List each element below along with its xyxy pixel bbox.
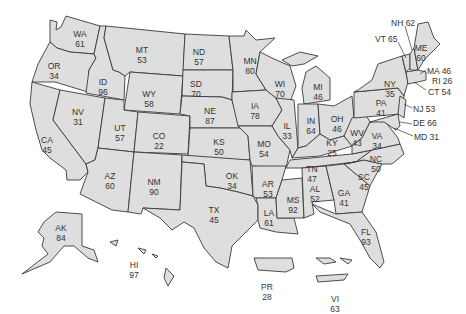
state-label-or: OR34 [48,62,61,81]
state-label-ar: AR53 [262,180,274,199]
state-value: 87 [204,117,216,127]
state-value: 96 [98,88,107,98]
state-value: 70 [190,90,202,100]
state-label-nm: NM90 [147,178,160,197]
state-label-va: VA34 [372,132,383,151]
state-value: 34 [226,182,238,192]
state-label-la: LA61 [264,209,274,228]
leader-ct [414,82,426,90]
state-label-nd: ND57 [193,48,205,67]
state-value: 53 [136,56,148,66]
state-value: 41 [376,109,387,119]
state-value: 80 [243,67,256,77]
state-label-sd: SD70 [190,80,202,99]
state-value: 93 [361,238,371,248]
state-label-ks: KS50 [213,138,224,157]
state-label-ak: AK84 [55,224,66,243]
state-nd [183,34,233,70]
state-value: 50 [370,165,382,175]
state-ak [22,212,98,274]
state-label-nv: NV31 [72,108,84,127]
state-label-ky: KY25 [326,139,337,158]
state-label-ca: CA45 [41,136,53,155]
leader-md [394,128,413,136]
state-value: 33 [282,132,291,142]
state-label-oh: OH46 [331,115,344,134]
state-value: 57 [193,58,205,68]
state-value: 28 [261,293,273,303]
state-label-wi: WI70 [275,80,285,99]
state-label-wa: WA61 [73,30,86,49]
state-label-ga: GA41 [338,189,350,208]
state-value: 70 [275,90,285,100]
state-value: 35 [384,90,396,100]
state-callout-md: MD 31 [414,133,439,143]
state-value: 47 [306,175,317,185]
state-value: 84 [55,234,66,244]
state-label-pr: PR28 [261,283,273,302]
state-label-ny: NY35 [384,80,396,99]
state-label-id: ID96 [98,78,107,97]
state-label-vi: VI63 [330,295,339,314]
state-value: 22 [153,142,166,152]
state-callout-ct: CT 54 [428,88,451,98]
state-callout-ri: RI 26 [432,77,452,87]
state-label-hi: HI97 [129,261,138,280]
state-label-ne: NE87 [204,107,216,126]
state-value: 90 [147,188,160,198]
state-callout-nh: NH 62 [391,19,415,29]
state-label-co: CO22 [153,132,166,151]
state-label-ok: OK34 [226,172,238,191]
state-value: 78 [250,112,259,122]
state-label-az: AZ60 [105,172,116,191]
state-value: 58 [142,100,156,110]
state-callout-nj: NJ 53 [413,105,435,115]
state-label-ia: IA78 [250,102,259,121]
state-value: 45 [209,216,220,226]
state-value: 34 [372,142,383,152]
leader-de [400,122,412,124]
state-value: 46 [331,125,344,135]
state-value: 45 [358,183,370,193]
state-value: 97 [129,271,138,281]
state-label-wy: WY58 [142,90,156,109]
state-hi [110,240,174,286]
territory-pr [254,258,294,272]
state-value: 53 [262,190,274,200]
state-label-il: IL33 [282,122,291,141]
state-label-ms: MS92 [287,196,300,215]
state-label-mt: MT53 [136,46,148,65]
state-callout-vt: VT 65 [375,35,398,45]
state-label-mo: MO54 [257,140,271,159]
state-value: 63 [330,305,339,314]
state-label-fl: FL93 [361,228,371,247]
state-label-wv: WV43 [350,129,364,148]
state-value: 61 [73,40,86,50]
state-label-sc: SC45 [358,173,370,192]
state-value: 25 [326,149,337,159]
territory-vi [316,258,352,282]
state-callout-de: DE 66 [413,119,437,129]
leader-nh [405,26,412,50]
state-value: 60 [105,182,116,192]
state-value: 45 [41,146,53,156]
state-value: 57 [114,134,125,144]
state-value: 92 [287,206,300,216]
state-value: 52 [310,195,320,205]
state-value: 50 [213,148,224,158]
state-label-al: AL52 [310,185,320,204]
state-label-nc: NC50 [370,155,382,174]
state-label-me: ME60 [415,44,428,63]
state-value: 61 [264,219,274,229]
state-value: 34 [48,72,61,82]
state-label-tx: TX45 [209,206,220,225]
us-map [0,0,466,314]
state-value: 64 [306,127,315,137]
state-value: 54 [257,150,271,160]
state-label-in: IN64 [306,117,315,136]
state-label-mn: MN80 [243,57,256,76]
state-label-tn: TN47 [306,165,317,184]
state-value: 31 [72,118,84,128]
state-value: 46 [313,93,322,103]
state-nj [398,96,406,118]
